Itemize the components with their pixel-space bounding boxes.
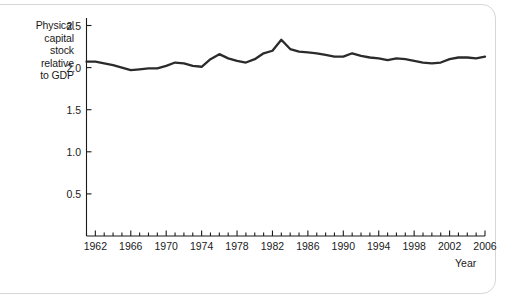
- axes-lines: [87, 18, 486, 236]
- x-tick-label: 1978: [217, 241, 257, 252]
- x-tick-label: 1970: [146, 241, 186, 252]
- x-tick-label: 1974: [182, 241, 222, 252]
- x-tick-label: 1962: [75, 241, 115, 252]
- x-tick-label: 1990: [323, 241, 363, 252]
- data-series-line: [87, 40, 486, 70]
- y-tick-label: 2.5: [55, 21, 81, 32]
- y-tick-label: 1.5: [55, 105, 81, 116]
- y-tick-label: 1.0: [55, 147, 81, 158]
- x-axis-title: Year: [455, 258, 476, 269]
- x-tick-label: 1966: [111, 241, 151, 252]
- y-tick-label: 2.0: [55, 63, 81, 74]
- x-tick-label: 2006: [465, 241, 505, 252]
- axis-ticks: [87, 26, 486, 237]
- y-tick-label: 0.5: [55, 189, 81, 200]
- x-tick-label: 1998: [394, 241, 434, 252]
- y-axis-title-line-2: capital: [8, 32, 74, 45]
- x-tick-label: 1994: [359, 241, 399, 252]
- x-tick-label: 1982: [252, 241, 292, 252]
- y-axis-title-line-3: stock: [8, 44, 74, 57]
- x-tick-label: 2002: [430, 241, 470, 252]
- x-tick-label: 1986: [288, 241, 328, 252]
